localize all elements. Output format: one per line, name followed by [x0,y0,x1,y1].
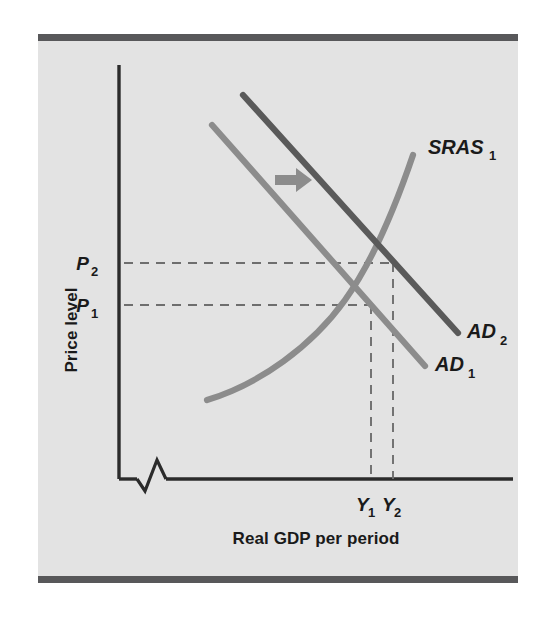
curve-label-sras1-text: SRAS [428,136,484,158]
y-tick-p2-sub: 2 [91,264,98,279]
figure-panel [38,35,518,583]
curve-label-ad2-text: AD [466,320,496,342]
y-tick-p2-label: P [76,253,89,274]
x-tick-y1-sub: 1 [368,505,375,520]
y-tick-p1-label: P [76,295,89,316]
curve-label-ad1-sub: 1 [468,366,475,381]
curve-label-sras1-sub: 1 [489,148,496,163]
curve-label-ad2-sub: 2 [500,333,507,348]
bottom-rule [38,576,518,583]
top-rule [38,34,518,41]
curve-label-ad1-text: AD [434,353,464,375]
x-axis-title: Real GDP per period [233,529,400,548]
economics-figure: Price level Real GDP per period P 2 P 1 … [0,0,554,623]
y-tick-p1-sub: 1 [91,306,98,321]
x-tick-y2-sub: 2 [394,505,401,520]
